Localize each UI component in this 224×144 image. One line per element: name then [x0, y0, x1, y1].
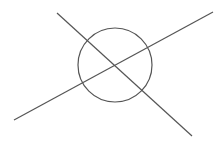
line-descending	[57, 13, 192, 136]
diagram-canvas	[0, 0, 224, 144]
